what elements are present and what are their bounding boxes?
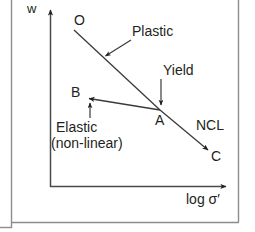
figure-container: w log σ′ O Plastic Yield B A NCL C Elast… bbox=[0, 0, 255, 232]
x-axis-label-text: log bbox=[186, 191, 205, 207]
annotation-elastic-line1: Elastic bbox=[56, 120, 97, 135]
segment-o-a bbox=[74, 30, 160, 110]
point-label-a: A bbox=[155, 113, 164, 128]
point-label-b: B bbox=[71, 85, 80, 100]
point-label-o: O bbox=[74, 13, 85, 28]
annotation-ncl: NCL bbox=[196, 118, 224, 133]
y-axis-label: w bbox=[27, 2, 36, 16]
point-label-c: C bbox=[211, 149, 221, 164]
leader-lines bbox=[90, 40, 161, 118]
sigma-prime-symbol: σ′ bbox=[209, 191, 220, 207]
x-axis-label: log σ′ bbox=[186, 192, 220, 207]
annotation-plastic: Plastic bbox=[132, 24, 173, 39]
annotation-yield: Yield bbox=[163, 63, 194, 78]
plastic-leader bbox=[106, 40, 132, 56]
annotation-elastic-line2: (non-linear) bbox=[51, 136, 123, 151]
